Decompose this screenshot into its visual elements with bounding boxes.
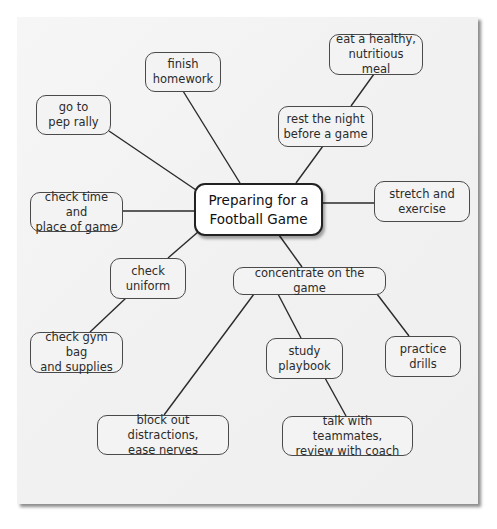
node-rest-night: rest the night before a game (278, 106, 373, 147)
node-talk-teammates: talk with teammates, review with coach (282, 416, 413, 456)
node-stretch: stretch and exercise (374, 181, 470, 222)
node-center-topic: Preparing for a Football Game (194, 183, 323, 236)
node-block-out: block out distractions, ease nerves (97, 415, 229, 455)
node-check-uniform: check uniform (110, 258, 186, 299)
node-concentrate: concentrate on the game (233, 267, 386, 295)
node-pep-rally: go to pep rally (36, 95, 111, 135)
node-healthy-meal: eat a healthy, nutritious meal (329, 34, 423, 75)
node-practice-drills: practice drills (385, 336, 461, 377)
node-study-playbook: study playbook (266, 338, 343, 379)
node-finish-homework: finish homework (145, 52, 221, 92)
node-check-time: check time and place of game (30, 192, 123, 232)
node-gym-bag: check gym bag and supplies (30, 332, 123, 373)
